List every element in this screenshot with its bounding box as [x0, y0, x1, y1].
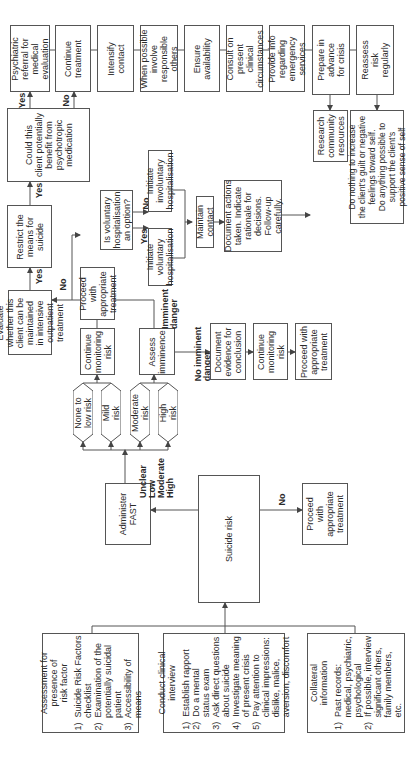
- evaluate-outpatient-box: Evaluate whether this client can be main…: [8, 290, 52, 355]
- suicide-risk-box: Suicide risk: [198, 475, 260, 603]
- voluntary-option-text: Is voluntary hospitalisation an option?: [102, 191, 132, 248]
- involve-others-text: When possible involve responsible others: [139, 29, 179, 88]
- ensure-availability-text: Ensure availability: [192, 38, 212, 80]
- imminent-danger-label: Imminent danger: [161, 289, 179, 329]
- no-risk-label: No: [278, 494, 287, 506]
- no-psychotropic-label: No: [62, 95, 71, 107]
- document-actions-box: Document actions taken. Indicate rationa…: [224, 180, 282, 252]
- document-actions-text: Document actions taken. Indicate rationa…: [223, 180, 283, 252]
- evaluate-outpatient-text: Evaluate whether this client can be main…: [0, 297, 65, 348]
- mild-risk-hex: Mild risk: [101, 383, 121, 442]
- none-to-low-risk-hex: None to low risk: [73, 383, 93, 442]
- do-nothing-text: Do nothing to increase the client's guil…: [347, 116, 407, 218]
- psychotropic-box: Could this client potentially benefit fr…: [7, 108, 90, 182]
- moderate-risk-text: Moderate risk: [130, 393, 150, 431]
- proceed-no-risk-box: Proceed with appropriate treatment: [302, 483, 348, 545]
- yes-psychotropic-label: Yes: [18, 93, 27, 109]
- proceed-box-2: Proceed with appropriate treatment: [295, 323, 332, 380]
- initiate-voluntary-box: Initiate voluntary hospitalisation: [148, 228, 172, 286]
- clinical-interview-box: Conduct clinical interview1) Establish r…: [163, 633, 285, 733]
- yes-restrict-label: Yes: [35, 183, 44, 199]
- intensify-contact-text: Intensify contact: [106, 42, 126, 76]
- research-resources-box: Research community resources: [313, 110, 348, 162]
- document-evidence-box: Document evidence for conclusion: [210, 323, 246, 380]
- proceed-text-1: Proceed with appropriate treatment: [78, 271, 118, 317]
- maintain-contact-box: Maintain contact: [196, 196, 214, 248]
- research-resources-text: Research community resources: [316, 114, 346, 158]
- high-risk-hex: High risk: [158, 383, 178, 442]
- risk-levels-label: Unclear Low Moderate High: [139, 458, 175, 498]
- provide-info-text: Provide info regarding emergency service…: [267, 35, 307, 83]
- initiate-voluntary-text: Initiate voluntary hospitalisation: [145, 228, 175, 285]
- restrict-means-text: Restrict the means for suicide: [15, 214, 45, 260]
- initiate-involuntary-text: Initiate involuntary hospitalisation: [145, 152, 175, 209]
- continue-treatment-text: Continue treatment: [63, 39, 83, 77]
- proceed-text-2: Proceed with appropriate treatment: [299, 325, 329, 377]
- provide-info-box: Provide info regarding emergency service…: [269, 25, 305, 92]
- continue-monitoring-box-2: Continue monitoring risk: [253, 323, 288, 380]
- mild-risk-text: Mild risk: [101, 404, 121, 421]
- consult-box: Consult on present clinical circumstance…: [226, 25, 263, 92]
- initiate-involuntary-box: Initiate involuntary hospitalisation: [148, 150, 172, 212]
- risk-factor-assessment-text: Assessment for presence of risk factor1)…: [39, 635, 143, 730]
- intensify-contact-box: Intensify contact: [97, 25, 134, 92]
- prepare-crisis-text: Prepare in advance for crisis: [316, 39, 346, 81]
- suicide-risk-text: Suicide risk: [224, 516, 234, 562]
- risk-factor-assessment-box: Assessment for presence of risk factor1)…: [42, 633, 139, 733]
- continue-treatment-box: Continue treatment: [55, 25, 91, 92]
- reassess-text: Reassess risk regularly: [360, 40, 390, 80]
- consult-text: Consult on present clinical circumstance…: [225, 30, 265, 88]
- psychiatric-referral-box: Psychiatric referral for medical evaluat…: [10, 25, 50, 92]
- administer-fast-text: Administer FAST: [118, 493, 138, 536]
- continue-monitoring-box-1: Continue monitoring risk: [80, 328, 115, 375]
- assess-imminence-box: Assess imminence: [139, 328, 175, 375]
- do-nothing-box: Do nothing to increase the client's guil…: [350, 110, 404, 224]
- reassess-box: Reassess risk regularly: [356, 25, 394, 95]
- moderate-risk-hex: Moderate risk: [130, 383, 150, 442]
- voluntary-option-box: Is voluntary hospitalisation an option?: [100, 190, 133, 250]
- proceed-box-1: Proceed with appropriate treatment: [80, 267, 115, 320]
- maintain-contact-text: Maintain contact: [195, 205, 215, 239]
- prepare-crisis-box: Prepare in advance for crisis: [312, 25, 350, 95]
- none-to-low-risk-text: None to low risk: [73, 397, 93, 429]
- clinical-interview-text: Conduct clinical interview1) Establish r…: [157, 636, 291, 730]
- document-evidence-text: Document evidence for conclusion: [213, 327, 243, 376]
- assess-imminence-text: Assess imminence: [147, 330, 167, 374]
- no-evaluate-label: No: [59, 279, 68, 291]
- ensure-availability-box: Ensure availability: [184, 25, 220, 92]
- continue-monitoring-text-2: Continue monitoring risk: [256, 330, 286, 372]
- collateral-information-box: Collateral information1) Past records: m…: [307, 633, 405, 733]
- high-risk-text: High risk: [158, 403, 178, 422]
- yes-evaluate-label: Yes: [35, 269, 44, 285]
- continue-monitoring-text-1: Continue monitoring risk: [83, 330, 113, 372]
- involve-others-box: When possible involve responsible others: [140, 25, 178, 92]
- psychiatric-referral-text: Psychiatric referral for medical evaluat…: [10, 37, 50, 81]
- psychotropic-text: Could this client potentially benefit fr…: [24, 113, 74, 177]
- collateral-information-text: Collateral information1) Past records: m…: [309, 636, 403, 730]
- proceed-no-risk-text: Proceed with appropriate treatment: [305, 491, 345, 537]
- restrict-means-box: Restrict the means for suicide: [7, 205, 52, 268]
